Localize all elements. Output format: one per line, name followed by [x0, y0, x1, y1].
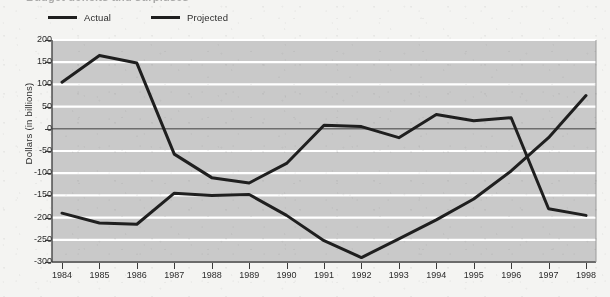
x-tick-label: 1995: [454, 270, 494, 280]
x-tick-label: 1996: [491, 270, 531, 280]
x-tick-label: 1993: [379, 270, 419, 280]
x-tick-label: 1992: [341, 270, 381, 280]
line-swatch-icon: [151, 16, 180, 19]
y-tick-mark: [45, 151, 51, 152]
x-tick-label: 1985: [79, 270, 119, 280]
x-tick-label: 1997: [529, 270, 569, 280]
line-swatch-icon: [48, 16, 77, 19]
x-tick-label: 1988: [192, 270, 232, 280]
x-tick-label: 1987: [154, 270, 194, 280]
legend-item-projected[interactable]: Projected: [151, 12, 228, 23]
y-tick-mark: [45, 262, 51, 263]
y-tick-mark: [45, 62, 51, 63]
y-tick-mark: [45, 195, 51, 196]
x-tick-label: 1994: [416, 270, 456, 280]
plot-area: [0, 0, 610, 297]
y-axis-ticks: 200150100500-50-100-150-200-250-300: [0, 0, 52, 297]
y-tick-mark: [45, 218, 51, 219]
x-tick-label: 1991: [304, 270, 344, 280]
y-tick-mark: [45, 173, 51, 174]
chart-legend: Actual Projected: [48, 12, 228, 23]
line-chart: Dollars (in billions) 200150100500-50-10…: [0, 0, 610, 297]
x-tick-label: 1986: [117, 270, 157, 280]
legend-label-projected: Projected: [187, 12, 228, 23]
x-tick-label: 1990: [267, 270, 307, 280]
x-tick-label: 1989: [229, 270, 269, 280]
y-tick-mark: [45, 240, 51, 241]
y-tick-mark: [45, 107, 51, 108]
y-tick-mark: [45, 129, 51, 130]
y-tick-mark: [45, 84, 51, 85]
legend-item-actual[interactable]: Actual: [48, 12, 111, 23]
legend-label-actual: Actual: [84, 12, 111, 23]
x-tick-label: 1998: [566, 270, 606, 280]
y-tick-mark: [45, 40, 51, 41]
x-tick-label: 1984: [42, 270, 82, 280]
x-axis-ticks: 1984198519861987198819891990199119921993…: [0, 270, 610, 290]
